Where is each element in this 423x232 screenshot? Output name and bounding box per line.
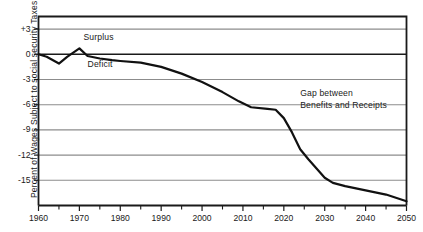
annotation-deficit: Deficit — [88, 59, 113, 69]
data-series-line — [39, 48, 407, 201]
annotation-gap-line-1: Gap between — [300, 87, 387, 99]
y-tick-label: -6 — [5, 99, 31, 109]
y-tick-label: +3 — [5, 24, 31, 34]
y-tick-label: 0 — [5, 49, 31, 59]
x-tick-label: 1980 — [100, 213, 140, 223]
x-tick-label: 2050 — [387, 213, 423, 223]
x-tick-label: 2000 — [182, 213, 222, 223]
y-tick-label: -15 — [5, 175, 31, 185]
chart-figure: Percent of Wages Subject to social secur… — [0, 0, 423, 232]
x-tick-label: 2030 — [305, 213, 345, 223]
x-tick-label: 2040 — [346, 213, 386, 223]
x-tick-label: 1970 — [59, 213, 99, 223]
annotation-surplus: Surplus — [83, 32, 113, 42]
y-tick-label: -12 — [5, 150, 31, 160]
x-tick-label: 1990 — [141, 213, 181, 223]
annotation-gap: Gap between Benefits and Receipts — [300, 87, 387, 111]
line-chart-canvas — [0, 0, 423, 232]
y-tick-label: -3 — [5, 74, 31, 84]
x-tick-label: 1960 — [19, 213, 59, 223]
y-tick-label: -9 — [5, 124, 31, 134]
plot-frame — [39, 17, 407, 206]
annotation-gap-line-2: Benefits and Receipts — [300, 99, 387, 111]
x-tick-label: 2020 — [264, 213, 304, 223]
x-tick-label: 2010 — [223, 213, 263, 223]
